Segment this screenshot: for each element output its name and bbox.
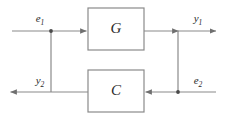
junction-dot-left: [49, 29, 53, 33]
signal-label-y1: y1: [193, 12, 203, 27]
signal-label-y2: y2: [35, 74, 45, 89]
block-C-label: C: [111, 82, 122, 98]
signal-label-y2-subscript: 2: [41, 80, 45, 89]
block-G-label: G: [111, 20, 122, 36]
diagram-canvas: G C e1 y1 y2 e2: [0, 0, 228, 118]
signal-label-y1-subscript: 1: [199, 18, 203, 27]
block-diagram: G C e1 y1 y2 e2: [0, 0, 228, 118]
signal-label-e2-subscript: 2: [199, 80, 203, 89]
signal-label-e1-subscript: 1: [41, 18, 45, 27]
junction-dot-right: [176, 90, 180, 94]
signal-label-e2: e2: [194, 74, 203, 89]
signal-label-e1: e1: [36, 12, 45, 27]
